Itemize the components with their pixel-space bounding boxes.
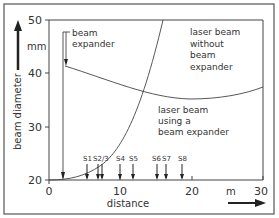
y-unit: mm bbox=[27, 41, 46, 52]
using-label-1: laser beam bbox=[158, 105, 208, 115]
y-tick-20: 20 bbox=[28, 174, 42, 187]
beam-diameter-chart: 50 40 30 20 0 10 20 30 mm m beam diamete… bbox=[0, 0, 279, 218]
y-direction-arrow-icon bbox=[14, 20, 22, 70]
using-label-3: beam expander bbox=[158, 127, 229, 137]
y-axis-title: beam diameter bbox=[12, 72, 23, 150]
station-s5: S5 bbox=[129, 155, 138, 163]
x-tick-30: 30 bbox=[254, 185, 268, 198]
x-unit: m bbox=[226, 186, 236, 197]
station-s8: S8 bbox=[178, 155, 187, 163]
station-s4: S4 bbox=[116, 155, 125, 163]
without-label-4: expander bbox=[190, 62, 233, 72]
station-s1: S1 bbox=[83, 155, 92, 163]
using-label-2: using a bbox=[158, 116, 191, 126]
station-s6: S6 bbox=[152, 155, 161, 163]
beam-expander-label-2: expander bbox=[72, 39, 115, 49]
station-s7: S7 bbox=[162, 155, 171, 163]
y-tick-30: 30 bbox=[28, 121, 42, 134]
beam-expander-label-1: beam bbox=[72, 28, 98, 38]
x-tick-10: 10 bbox=[113, 185, 127, 198]
without-label-1: laser beam bbox=[190, 27, 240, 37]
beam-expander-marker bbox=[61, 32, 70, 180]
x-tick-20: 20 bbox=[185, 185, 199, 198]
x-axis-title: distance bbox=[107, 198, 149, 209]
y-tick-40: 40 bbox=[28, 67, 42, 80]
without-label-3: beam bbox=[190, 50, 216, 60]
x-direction-arrow-icon bbox=[228, 199, 266, 207]
x-tick-0: 0 bbox=[46, 185, 53, 198]
y-tick-50: 50 bbox=[28, 14, 42, 27]
without-label-2: without bbox=[190, 39, 224, 49]
station-s23: S2/3 bbox=[93, 155, 109, 163]
curve-with-expander bbox=[65, 66, 263, 99]
